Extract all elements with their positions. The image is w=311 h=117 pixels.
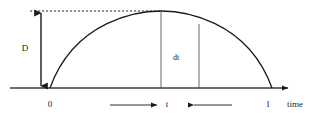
interval-label: dt <box>173 53 180 62</box>
origin-label: 0 <box>48 99 53 109</box>
end-label: 1 <box>266 99 271 109</box>
duration-diagram-figure: D dt 0 t 1 time <box>0 0 311 117</box>
figure-canvas: D dt 0 t 1 time <box>0 0 311 117</box>
axis-label-time: time <box>287 99 303 109</box>
amplitude-label: D <box>22 43 29 53</box>
time-marker-label: t <box>166 99 169 109</box>
